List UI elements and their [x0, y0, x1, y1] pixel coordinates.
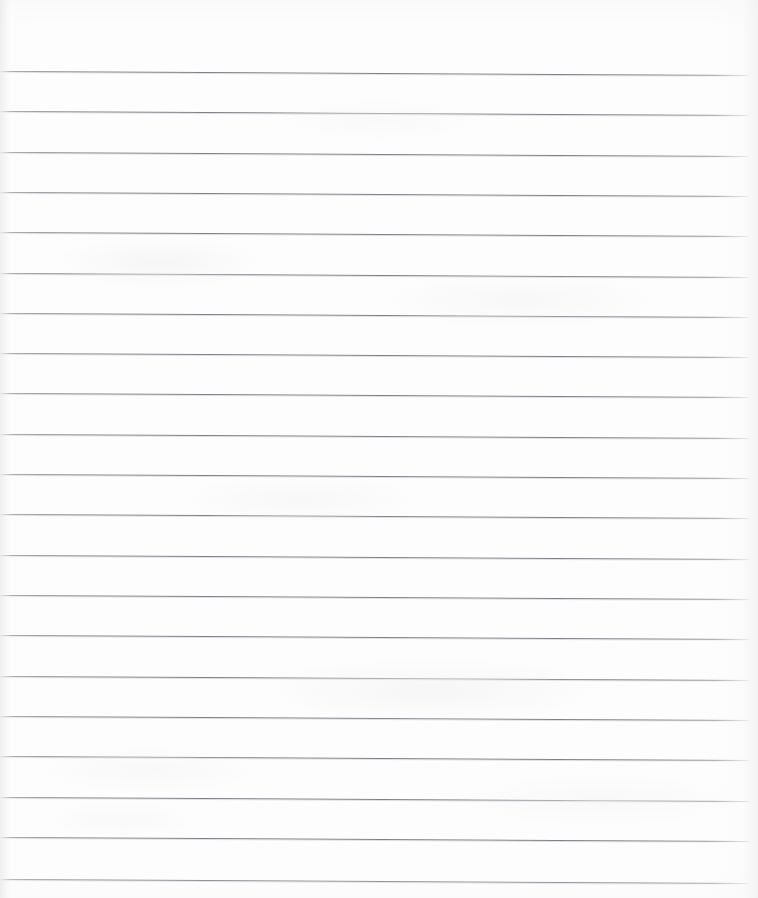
scanned-page — [0, 0, 758, 898]
paper-background — [0, 0, 758, 898]
